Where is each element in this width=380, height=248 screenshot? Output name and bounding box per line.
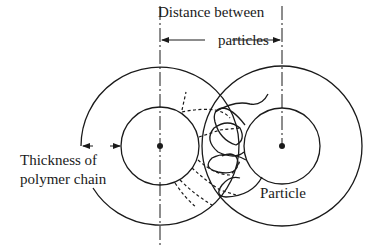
right-center-dot — [279, 143, 285, 149]
distance-label-line1: Distance between — [158, 4, 264, 21]
thickness-label-line1: Thickness of — [20, 152, 97, 169]
thickness-label-line2: polymer chain — [20, 171, 106, 188]
right-chains — [208, 94, 268, 197]
diagram-svg — [0, 0, 380, 248]
diagram-canvas: Distance between particles Thickness of … — [0, 0, 380, 248]
left-center-dot — [157, 143, 163, 149]
distance-label-line2: particles — [218, 32, 269, 49]
particle-label: Particle — [260, 185, 306, 202]
